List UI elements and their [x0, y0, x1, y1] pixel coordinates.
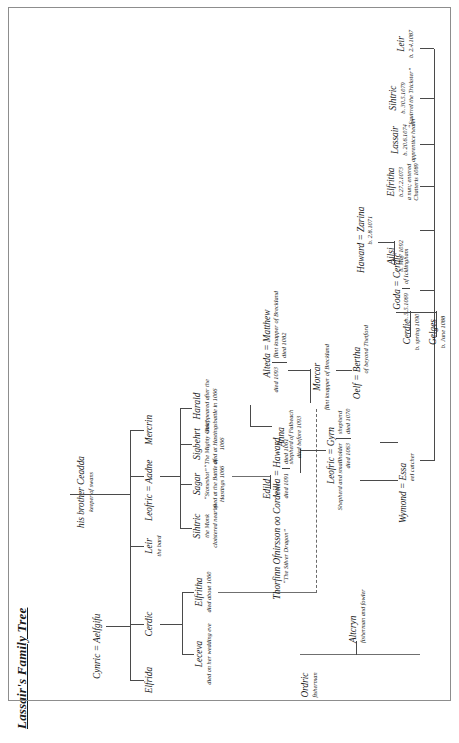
name-cerdic-top: Cerdic	[144, 597, 155, 651]
name-morcar: Morcar	[312, 329, 323, 425]
node-anna: Anna shepherd of Fulbeach died before 10…	[276, 389, 302, 485]
connector-mercrin-stem	[130, 430, 144, 431]
node-oelf-bertha: Oelf = Bertha of beyond Thetford	[352, 321, 370, 425]
node-leir-bard: Leir the bard	[144, 519, 163, 573]
detail-haward-1071: b. 2.8.1071	[366, 212, 374, 268]
connector-haward-stem	[420, 230, 434, 231]
node-leofric-gyrn: Leofric = Gyrn Shepherd and smallholder …	[326, 382, 351, 529]
connector-gen1-drop	[106, 626, 130, 627]
connector-essa-up	[380, 442, 398, 443]
connector-leofric-children-bar	[180, 409, 181, 529]
detail-gelges: b. June 1088	[439, 295, 447, 369]
node-altcryn: Altcryn fisherman and fowler	[348, 543, 367, 643]
node-leir-1087: Leir b. 2.4.1087	[396, 7, 415, 81]
connector-elfrida-stem	[130, 680, 144, 681]
node-ordric: Ordric fisherman	[300, 657, 319, 713]
name-gelges: Gelges	[428, 295, 439, 369]
detail-oelf-bertha: of beyond Thetford	[362, 321, 370, 425]
family-tree-sheet: Lassair's Family Tree Cynric = Aelfgifu …	[0, 0, 459, 743]
node-harald: Harald disappeared after the battle in 1…	[192, 369, 218, 443]
node-leofric-aadne: Leofric = Aadne	[144, 460, 154, 521]
detail-elfritha-1060: died about 1060	[205, 555, 213, 629]
connector-altreda-stem	[250, 426, 272, 427]
connector-gyrn-up	[300, 450, 326, 451]
node-gelges: Gelges b. June 1088	[428, 295, 447, 369]
connector-wymond-up	[360, 480, 398, 481]
name-edild: Edild	[262, 461, 273, 517]
name-leir-bard: Leir	[144, 519, 155, 573]
spine-elfritha-to-cordeilla	[218, 592, 316, 593]
connector-morcar-drop	[288, 370, 310, 371]
rotated-page-stage: Lassair's Family Tree Cynric = Aelfgifu …	[0, 0, 459, 743]
spine-ordric	[300, 654, 420, 655]
detail-thorfinn: “The Silver Dragon”	[282, 525, 290, 625]
detail-altcryn: fisherman and fowler	[359, 543, 367, 643]
name-harald: Harald	[192, 369, 203, 443]
detail-harald: disappeared after the battle in 1066	[203, 369, 218, 443]
connector-sihtric-trickster-stem	[420, 98, 434, 99]
name-elfrida-top: Elfrida	[144, 651, 155, 709]
name-anna: Anna	[276, 389, 287, 485]
node-elfritha-1060: Elfritha died about 1060	[194, 555, 213, 629]
name-altcryn: Altcryn	[348, 543, 359, 643]
connector-cerdic-children-drop	[160, 624, 182, 625]
node-ceadda: his brother Ceadda keeper of swans	[76, 437, 95, 547]
connector-elfritha1060-stem	[182, 592, 194, 593]
name-leir-1087: Leir	[396, 7, 407, 81]
name-ceadda: his brother Ceadda	[76, 437, 87, 547]
label-wymond-essa: Wymond = Essa	[398, 463, 408, 523]
connector-morcar-bar	[310, 369, 311, 403]
detail-matthew: flint knapper of Breckland died 1082	[272, 262, 287, 363]
name-elfritha-1060: Elfritha	[194, 555, 205, 629]
connector-wymond-children-drop	[420, 460, 434, 461]
connector-leofric-aadne-stem	[130, 476, 144, 477]
connector-sihtric-monk-stem	[180, 528, 192, 529]
label-leofric-aadne: Leofric = Aadne	[144, 460, 154, 521]
connector-cerdic-stem	[130, 624, 144, 625]
connector-dashed-thorfinn-line	[316, 409, 317, 593]
detail-wymond: eel catcher	[408, 449, 416, 537]
connector-sigbehrt-stem	[180, 444, 192, 445]
node-haward-zarina: Haward = Zarina b. 2.8.1071	[356, 207, 374, 273]
node-wymond-essa: Wymond = Essa eel catcher	[398, 449, 416, 537]
detail-ailsi: b. May 1092	[397, 219, 405, 293]
node-elfrida-top: Elfrida	[144, 651, 155, 709]
connector-leceva-stem	[182, 654, 194, 655]
connector-cerdic-children-bar	[182, 593, 183, 655]
name-cerdic-1090: Cerdic	[402, 295, 413, 369]
detail-leir-bard: the bard	[155, 519, 163, 573]
label-haward-zarina: Haward = Zarina	[356, 207, 366, 273]
connector-goda-stem	[420, 290, 434, 291]
connector-altreda-bar	[250, 405, 251, 427]
sheet-border	[8, 7, 451, 701]
connector-leir-stem	[130, 546, 144, 547]
connector-altcryn-tick	[356, 641, 357, 655]
node-mercrin: Mercrin	[144, 403, 155, 457]
connector-children-bar	[434, 49, 435, 303]
detail-leofric-gyrn-left: Shepherd and smallholder died 1063	[336, 439, 351, 529]
detail-anna: shepherd of Fulbeach died before 1093	[287, 389, 302, 485]
name-ordric: Ordric	[300, 657, 311, 713]
node-cynric-aelfgifu: Cynric = Aelfgifu	[92, 614, 102, 680]
node-ailsi: Ailsi b. May 1092	[386, 219, 405, 293]
connector-ceadda-drop	[70, 494, 130, 495]
connector-oelf-stem	[336, 370, 352, 371]
node-cerdic-1090: Cerdic b. spring 1090	[402, 295, 421, 369]
connector-lassair-stem	[420, 144, 434, 145]
connector-harald-stem	[180, 408, 192, 409]
connector-gen2-bar	[130, 431, 131, 681]
connector-leofric-children-drop	[160, 476, 180, 477]
detail-ordric: fisherman	[311, 657, 319, 713]
connector-elfritha-nun-stem	[420, 186, 434, 187]
connector-leir1087-stem	[420, 48, 434, 49]
name-ailsi: Ailsi	[386, 219, 397, 293]
label-oelf-bertha: Oelf = Bertha	[352, 347, 362, 399]
connector-sagar-stem	[180, 484, 192, 485]
detail-cerdic-1090: b. spring 1090	[413, 295, 421, 369]
label-cynric-aelfgifu: Cynric = Aelfgifu	[92, 614, 102, 680]
node-cerdic-top: Cerdic	[144, 597, 155, 651]
label-leofric-gyrn: Leofric = Gyrn	[326, 427, 336, 484]
detail-leofric-gyrn-right: shepherd died 1070	[336, 382, 351, 439]
name-mercrin: Mercrin	[144, 403, 155, 457]
label-altreda-matthew: Alteda = Matthew	[262, 310, 272, 378]
